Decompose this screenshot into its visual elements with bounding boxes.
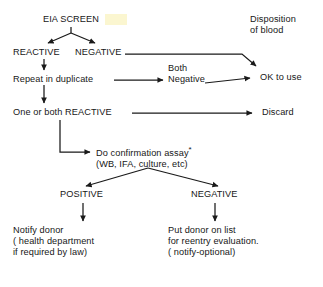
node-ok-to-use: OK to use xyxy=(260,72,302,83)
edge-eia-to-reactive xyxy=(48,33,71,43)
edge-confirmation-to-negative xyxy=(148,168,218,186)
edge-confirmation-to-positive xyxy=(86,168,148,186)
confirmation-assay-asterisk: * xyxy=(189,145,192,154)
confirmation-assay-line1: Do confirmation assay xyxy=(96,148,189,158)
node-negative-top: NEGATIVE xyxy=(75,47,121,58)
node-disposition-of-blood: Disposition of blood xyxy=(250,14,296,36)
node-repeat-in-duplicate: Repeat in duplicate xyxy=(13,74,93,85)
node-put-donor-on-list: Put donor on list for reentry evaluation… xyxy=(168,225,259,258)
node-eia-screen: EIA SCREEN xyxy=(36,14,106,25)
edge-one-or-both-reactive-to-confirmation xyxy=(60,120,90,152)
edge-eia-to-negative xyxy=(71,33,95,43)
node-both-negative: Both Negative xyxy=(168,63,205,85)
edge-both-negative-to-ok-to-use xyxy=(205,78,250,83)
eia-screen-highlight xyxy=(105,14,127,25)
node-one-or-both-reactive: One or both REACTIVE xyxy=(13,107,112,118)
node-reactive: REACTIVE xyxy=(13,47,60,58)
node-notify-donor: Notify donor ( health department if requ… xyxy=(13,225,94,258)
flowchart-canvas: EIA SCREEN Disposition of blood REACTIVE… xyxy=(0,0,323,287)
node-positive: POSITIVE xyxy=(60,189,103,200)
node-discard: Discard xyxy=(262,107,294,118)
confirmation-assay-line2: (WB, IFA, culture, etc) xyxy=(96,159,188,169)
node-confirmation-assay: Do confirmation assay*(WB, IFA, culture,… xyxy=(96,144,192,170)
node-negative-bottom: NEGATIVE xyxy=(191,189,237,200)
